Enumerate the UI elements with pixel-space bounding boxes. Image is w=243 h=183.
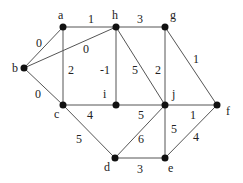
edge-weight-b-c: 0 <box>35 87 41 101</box>
node-d <box>112 155 119 162</box>
node-label-j: j <box>171 87 175 101</box>
edge-weight-g-j: 2 <box>155 63 161 77</box>
edge-a-b <box>24 27 63 68</box>
node-i <box>113 102 120 109</box>
node-label-i: i <box>103 87 107 101</box>
graph-diagram: 012003-152145156534 abcdefghij <box>0 0 243 183</box>
edge-weight-h-j: 5 <box>132 63 138 77</box>
edge-weight-h-i: -1 <box>100 63 110 77</box>
node-label-b: b <box>12 61 18 75</box>
edge-weight-d-j: 6 <box>138 132 144 146</box>
node-labels-layer: abcdefghij <box>12 8 230 175</box>
edge-weight-c-i: 4 <box>87 108 93 122</box>
node-label-c: c <box>54 107 59 121</box>
node-j <box>162 102 169 109</box>
node-h <box>113 24 120 31</box>
edge-b-c <box>24 68 63 105</box>
edge-weight-j-e: 5 <box>171 122 177 136</box>
edge-weight-h-g: 3 <box>137 12 143 26</box>
node-g <box>162 24 169 31</box>
node-label-d: d <box>104 160 110 174</box>
node-a <box>60 24 67 31</box>
edge-weight-e-f: 4 <box>193 130 199 144</box>
edge-weight-a-b: 0 <box>36 36 42 50</box>
edge-weight-a-c: 2 <box>68 63 74 77</box>
edge-weight-d-e: 3 <box>137 162 143 176</box>
edge-weight-b-h: 0 <box>83 42 89 56</box>
edge-weight-j-f: 1 <box>190 108 196 122</box>
edge-weight-i-j: 5 <box>138 108 144 122</box>
edge-weight-c-d: 5 <box>76 132 82 146</box>
node-label-g: g <box>170 8 176 22</box>
node-label-e: e <box>168 161 173 175</box>
edge-weight-a-h: 1 <box>88 12 94 26</box>
edge-weight-g-f: 1 <box>193 52 199 66</box>
node-label-h: h <box>112 8 118 22</box>
node-label-a: a <box>58 8 64 22</box>
node-f <box>214 102 221 109</box>
node-label-f: f <box>226 104 230 118</box>
node-b <box>21 65 28 72</box>
edges-layer <box>24 27 217 158</box>
node-c <box>60 102 67 109</box>
